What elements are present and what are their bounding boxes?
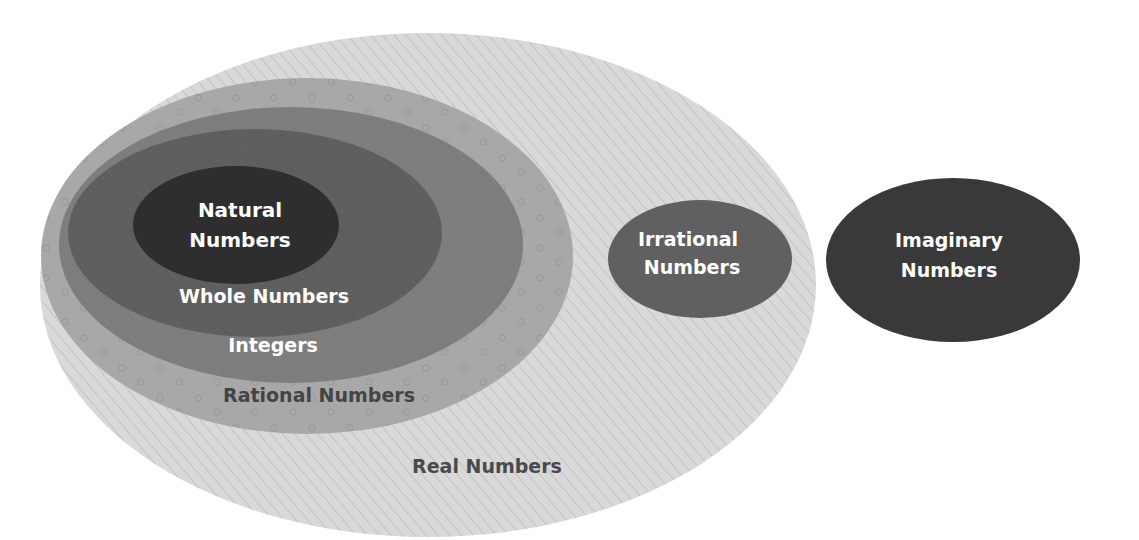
label-natural-2: Numbers xyxy=(189,228,290,252)
label-irrational-2: Numbers xyxy=(644,256,740,278)
label-irrational-1: Irrational xyxy=(638,228,738,250)
number-sets-diagram: Natural Numbers Whole Numbers Integers R… xyxy=(0,0,1139,540)
label-imaginary-1: Imaginary xyxy=(895,229,1004,251)
label-natural-1: Natural xyxy=(198,198,282,222)
label-integers: Integers xyxy=(228,334,318,356)
label-imaginary-2: Numbers xyxy=(901,259,997,281)
label-rational-numbers: Rational Numbers xyxy=(223,384,415,406)
label-real-numbers: Real Numbers xyxy=(412,455,562,477)
label-whole-numbers: Whole Numbers xyxy=(179,285,349,307)
set-natural-numbers xyxy=(133,166,339,284)
